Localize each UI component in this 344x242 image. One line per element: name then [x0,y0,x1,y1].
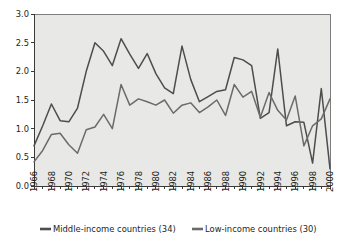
x-tick-label: 1966 [29,171,39,192]
y-tick-label: 0.5 [16,152,29,162]
y-tick-label: 1.5 [16,95,29,105]
x-tick-label: 1970 [64,171,74,192]
legend-label-2: Low-income countries (30) [205,224,317,234]
legend-label-1: Middle-income countries (34) [53,224,176,234]
x-tick-label: 1976 [116,171,126,192]
x-tick-label: 1996 [290,171,300,192]
y-tick-label: 2.5 [16,38,29,48]
x-tick-label: 1968 [47,171,57,192]
x-tick-label: 1998 [308,171,318,192]
x-tick-label: 1990 [238,171,248,192]
y-axis-tick-labels: 0.00.51.01.52.02.53.0 [16,9,29,191]
x-tick-label: 1988 [221,171,231,192]
chart-canvas: 0.00.51.01.52.02.53.0 196619681970197219… [0,0,344,242]
plot-background [34,14,330,186]
x-tick-label: 1984 [186,171,196,192]
y-tick-label: 1.0 [16,124,29,134]
y-tick-label: 3.0 [16,9,29,19]
x-tick-label: 1994 [273,171,283,192]
x-tick-label: 1982 [168,171,178,192]
x-tick-label: 2000 [325,171,335,192]
y-tick-label: 2.0 [16,66,29,76]
line-chart: 0.00.51.01.52.02.53.0 196619681970197219… [0,0,344,242]
x-tick-label: 1992 [256,171,266,192]
x-tick-label: 1986 [203,171,213,192]
x-tick-label: 1972 [81,171,91,192]
x-tick-label: 1974 [99,171,109,192]
y-tick-label: 0.0 [16,181,29,191]
x-tick-label: 1978 [134,171,144,192]
chart-legend: Middle-income countries (34)Low-income c… [40,224,317,234]
x-tick-label: 1980 [151,171,161,192]
